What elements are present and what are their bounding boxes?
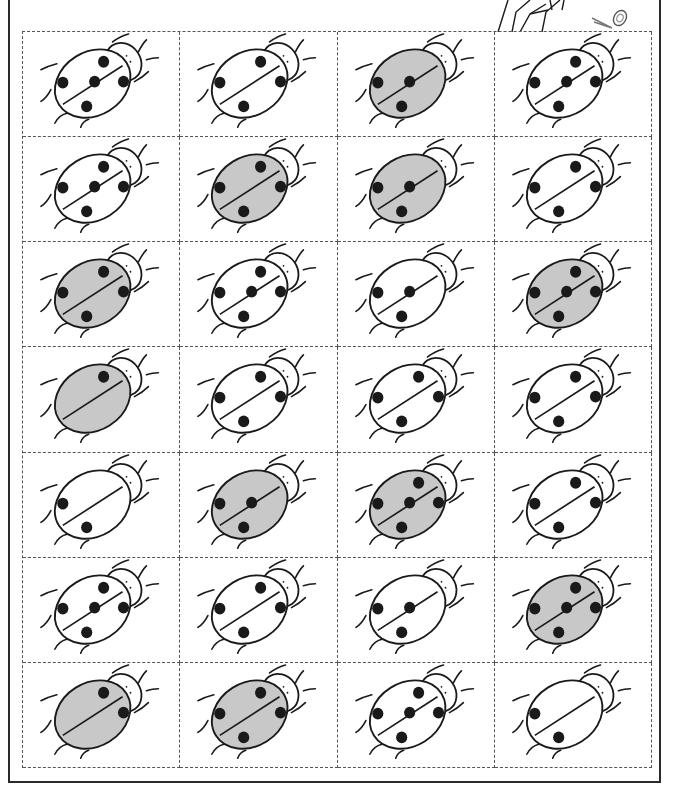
ladybug-card[interactable] (180, 558, 337, 663)
ladybug-spot (81, 206, 92, 218)
ladybug-spot (214, 77, 225, 89)
ladybug-card[interactable] (495, 663, 652, 768)
ladybug-spot (590, 496, 601, 508)
ladybug-spot (57, 182, 68, 194)
ladybug-icon (338, 663, 494, 767)
ladybug-icon (338, 347, 494, 451)
ladybug-spot (372, 182, 383, 194)
ladybug-spot (529, 77, 540, 89)
ladybug-spot (89, 181, 100, 193)
ladybug-spot (214, 392, 225, 404)
ladybug-icon (495, 137, 651, 241)
ladybug-card[interactable] (495, 32, 652, 137)
ladybug-spot (118, 76, 129, 88)
ladybug-card[interactable] (23, 347, 180, 452)
ladybug-spot (214, 707, 225, 719)
ladybug-spot (238, 731, 249, 743)
ladybug-card[interactable] (23, 32, 180, 137)
ladybug-icon (180, 32, 336, 136)
ladybug-card[interactable] (338, 558, 495, 663)
ladybug-spot (432, 391, 443, 403)
ladybug-card[interactable] (495, 347, 652, 452)
ladybug-card[interactable] (338, 453, 495, 558)
ladybug-card[interactable] (180, 137, 337, 242)
ladybug-spot (81, 626, 92, 638)
ladybug-spot (553, 311, 564, 323)
ladybug-spot (275, 181, 286, 193)
ladybug-spot (561, 601, 572, 613)
ladybug-icon (338, 453, 494, 557)
ladybug-spot (81, 311, 92, 323)
ladybug-card[interactable] (495, 453, 652, 558)
ladybug-card[interactable] (23, 663, 180, 768)
ladybug-spot (98, 56, 109, 68)
ladybug-spot (238, 521, 249, 533)
ladybug-spot (590, 601, 601, 613)
ladybug-spot (246, 496, 257, 508)
ladybug-card[interactable] (23, 137, 180, 242)
ladybug-spot (255, 687, 266, 699)
ladybug-card[interactable] (23, 453, 180, 558)
ladybug-card[interactable] (338, 32, 495, 137)
ladybug-spot (590, 181, 601, 193)
ladybug-icon (180, 453, 336, 557)
ladybug-card[interactable] (338, 242, 495, 347)
ladybug-icon (338, 558, 494, 662)
ladybug-spot (372, 707, 383, 719)
ladybug-spot (57, 497, 68, 509)
ladybug-spot (413, 371, 424, 383)
ladybug-spot (529, 182, 540, 194)
ladybug-spot (238, 206, 249, 218)
ladybug-card[interactable] (495, 137, 652, 242)
ladybug-spot (57, 287, 68, 299)
ladybug-spot (57, 602, 68, 614)
ladybug-spot (396, 206, 407, 218)
ladybug-spot (553, 416, 564, 428)
ladybug-card[interactable] (338, 663, 495, 768)
ladybug-spot (81, 521, 92, 533)
ladybug-spot (81, 100, 92, 112)
ladybug-icon (495, 558, 651, 662)
ladybug-card[interactable] (180, 453, 337, 558)
ladybug-spot (570, 582, 581, 594)
ladybug-spot (529, 602, 540, 614)
ladybug-spot (396, 521, 407, 533)
ladybug-spot (561, 76, 572, 88)
ladybug-icon (495, 663, 651, 767)
ladybug-spot (57, 77, 68, 89)
ladybug-spot (372, 497, 383, 509)
ladybug-card[interactable] (23, 242, 180, 347)
ladybug-icon (338, 137, 494, 241)
ladybug-spot (561, 286, 572, 298)
ladybug-icon (338, 242, 494, 346)
ladybug-card[interactable] (180, 663, 337, 768)
ladybug-card[interactable] (495, 558, 652, 663)
ladybug-spot (98, 582, 109, 594)
ladybug-card[interactable] (180, 242, 337, 347)
ladybug-spot (553, 731, 564, 743)
ladybug-card[interactable] (180, 347, 337, 452)
ladybug-spot (275, 601, 286, 613)
ladybug-spot (275, 706, 286, 718)
ladybug-card-grid (22, 31, 652, 768)
ladybug-icon (495, 242, 651, 346)
ladybug-spot (553, 626, 564, 638)
ladybug-spot (238, 100, 249, 112)
ladybug-spot (529, 497, 540, 509)
ladybug-card[interactable] (180, 32, 337, 137)
ladybug-card[interactable] (23, 558, 180, 663)
ladybug-spot (118, 601, 129, 613)
ladybug-icon (23, 242, 179, 346)
ladybug-card[interactable] (338, 137, 495, 242)
ladybug-card[interactable] (495, 242, 652, 347)
ladybug-card[interactable] (338, 347, 495, 452)
ladybug-icon (23, 558, 179, 662)
ladybug-spot (590, 286, 601, 298)
ladybug-spot (529, 392, 540, 404)
ladybug-spot (98, 161, 109, 173)
ladybug-icon (495, 32, 651, 136)
ladybug-spot (372, 77, 383, 89)
ladybug-spot (275, 391, 286, 403)
ladybug-spot (590, 76, 601, 88)
ladybug-spot (214, 497, 225, 509)
